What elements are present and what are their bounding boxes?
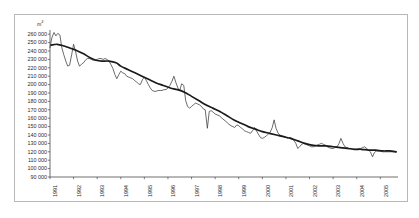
monthly-data-line <box>50 33 396 157</box>
trend-data-line <box>51 44 396 152</box>
chart-figure: m3 260 000250 000240 000230 000220 00021… <box>0 0 419 218</box>
plot-canvas <box>0 0 419 218</box>
axis-lines <box>50 30 398 177</box>
